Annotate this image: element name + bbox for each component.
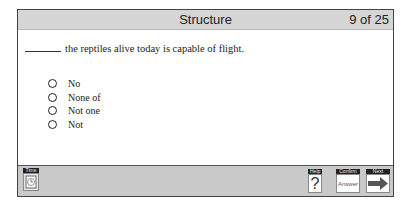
option-label: None of — [68, 92, 101, 103]
answer-options: No None of Not one Not — [48, 77, 101, 131]
question-text: the reptiles alive today is capable of f… — [25, 43, 244, 54]
question-sentence: the reptiles alive today is capable of f… — [65, 43, 244, 54]
time-button[interactable]: Time — [23, 168, 39, 191]
option-label: No — [68, 78, 80, 89]
radio-button[interactable] — [48, 120, 57, 129]
radio-button[interactable] — [48, 106, 57, 115]
bottom-toolbar: Time Help ? Confirm Answer Next — [18, 165, 393, 196]
radio-button[interactable] — [48, 93, 57, 102]
radio-button[interactable] — [48, 79, 57, 88]
option-not[interactable]: Not — [48, 118, 101, 132]
help-button[interactable]: Help ? — [308, 169, 322, 193]
option-none-of[interactable]: None of — [48, 91, 101, 105]
confirm-answer-button[interactable]: Confirm Answer — [336, 169, 360, 193]
option-label: Not one — [68, 105, 100, 116]
next-button[interactable]: Next — [366, 169, 390, 193]
option-not-one[interactable]: Not one — [48, 104, 101, 118]
answer-label: Answer — [336, 174, 360, 193]
header-bar: Structure 9 of 25 — [18, 10, 393, 30]
question-counter: 9 of 25 — [349, 12, 389, 27]
arrow-right-icon — [366, 174, 390, 193]
option-label: Not — [68, 119, 83, 130]
clock-icon — [23, 173, 39, 191]
answer-blank — [25, 43, 61, 52]
test-window: Structure 9 of 25 the reptiles alive tod… — [17, 9, 394, 197]
question-mark-icon: ? — [308, 174, 322, 193]
option-no[interactable]: No — [48, 77, 101, 91]
section-title: Structure — [18, 12, 393, 27]
